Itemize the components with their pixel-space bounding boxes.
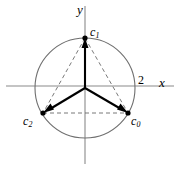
x-axis-label: x xyxy=(159,76,165,89)
point-label-c1-subscript: 1 xyxy=(96,31,100,40)
vector-to-c0 xyxy=(85,88,121,109)
complex-plane-figure: y x 2 c1 c0 c2 xyxy=(0,0,178,171)
point-label-c1-base: c xyxy=(90,25,95,39)
x-axis-tick-label-2: 2 xyxy=(138,74,144,86)
point-label-c0-base: c xyxy=(131,114,136,128)
y-axis-label: y xyxy=(77,3,83,16)
figure-canvas xyxy=(0,0,178,171)
point-label-c0-subscript: 0 xyxy=(137,120,141,129)
vector-to-c2 xyxy=(50,88,85,109)
point-marker-c0 xyxy=(125,110,130,115)
point-label-c2-base: c xyxy=(23,114,28,128)
point-label-c2: c2 xyxy=(23,115,32,129)
point-label-c0: c0 xyxy=(131,115,140,129)
point-marker-c1 xyxy=(82,35,87,40)
point-label-c1: c1 xyxy=(90,26,99,40)
point-label-c2-subscript: 2 xyxy=(29,120,33,129)
point-marker-c2 xyxy=(40,110,45,115)
